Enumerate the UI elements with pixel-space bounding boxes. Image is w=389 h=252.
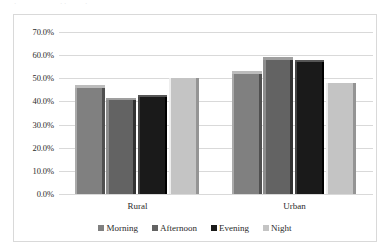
bar-bevel-left xyxy=(295,60,298,194)
bar-bevel-left xyxy=(232,71,235,194)
legend-label: Evening xyxy=(219,223,249,233)
bar-face xyxy=(75,85,105,194)
bar-bevel-top xyxy=(169,76,199,79)
bar-bevel-left xyxy=(326,81,329,194)
bar-bevel-left xyxy=(138,95,141,195)
legend-swatch-icon xyxy=(98,225,104,231)
bar-bevel-top xyxy=(263,57,293,60)
bar-face xyxy=(169,76,199,194)
legend-item-night[interactable]: Night xyxy=(263,223,292,233)
bars-layer xyxy=(59,32,373,194)
y-axis-tick-label: 70.0% xyxy=(33,27,54,37)
bar-bevel-left xyxy=(263,57,266,194)
top-artifact-text: · xyxy=(14,0,16,8)
bar-face xyxy=(263,57,293,194)
legend-swatch-icon xyxy=(152,225,158,231)
y-axis-tick-label: 60.0% xyxy=(33,50,54,60)
bar-bevel-right xyxy=(165,95,168,195)
bar-bevel-left xyxy=(75,85,78,194)
top-artifact-text: · · xyxy=(60,0,66,8)
bar-face xyxy=(232,71,262,194)
y-axis-tick-label: 40.0% xyxy=(33,96,54,106)
bar-bevel-top xyxy=(75,85,105,88)
bar-face xyxy=(138,95,168,195)
bar-night-rural xyxy=(169,76,199,194)
bar-bevel-left xyxy=(169,76,172,194)
legend-label: Afternoon xyxy=(160,223,197,233)
bar-bevel-right xyxy=(102,85,105,194)
bar-bevel-top xyxy=(326,81,356,84)
bar-morning-rural xyxy=(75,85,105,194)
legend-label: Night xyxy=(271,223,292,233)
y-axis-tick-label: 0.0% xyxy=(37,189,54,199)
top-artifact-text: · xyxy=(85,0,87,8)
chart-legend: MorningAfternoonEveningNight xyxy=(14,223,376,233)
gridline xyxy=(59,194,373,195)
bar-face xyxy=(326,81,356,194)
y-axis-tick-label: 20.0% xyxy=(33,143,54,153)
category-label-urban: Urban xyxy=(283,201,306,211)
bar-bevel-right xyxy=(133,98,136,194)
bar-evening-rural xyxy=(138,95,168,195)
bar-bevel-right xyxy=(196,76,199,194)
legend-swatch-icon xyxy=(211,225,217,231)
bar-bevel-top xyxy=(232,71,262,74)
plot-area: 0.0%10.0%20.0%30.0%40.0%50.0%60.0%70.0% xyxy=(59,32,373,194)
y-axis-tick-label: 50.0% xyxy=(33,73,54,83)
bar-bevel-right xyxy=(259,71,262,194)
bar-night-urban xyxy=(326,81,356,194)
bar-bevel-left xyxy=(106,98,109,194)
bar-bevel-top xyxy=(106,98,136,101)
bar-bevel-top xyxy=(295,60,325,63)
y-axis-tick-label: 10.0% xyxy=(33,166,54,176)
legend-item-afternoon[interactable]: Afternoon xyxy=(152,223,197,233)
chart-frame: 0.0%10.0%20.0%30.0%40.0%50.0%60.0%70.0% … xyxy=(13,14,377,242)
legend-swatch-icon xyxy=(263,225,269,231)
y-axis-tick-label: 30.0% xyxy=(33,120,54,130)
bar-bevel-right xyxy=(353,81,356,194)
bar-face xyxy=(106,98,136,194)
legend-label: Morning xyxy=(106,223,138,233)
bar-morning-urban xyxy=(232,71,262,194)
bar-bevel-top xyxy=(138,95,168,98)
top-edge-artifacts: ·· ·· xyxy=(0,0,389,9)
bar-afternoon-rural xyxy=(106,98,136,194)
bar-bevel-right xyxy=(290,57,293,194)
legend-item-morning[interactable]: Morning xyxy=(98,223,138,233)
bar-bevel-right xyxy=(322,60,325,194)
bar-evening-urban xyxy=(295,60,325,194)
bar-afternoon-urban xyxy=(263,57,293,194)
legend-item-evening[interactable]: Evening xyxy=(211,223,249,233)
category-label-rural: Rural xyxy=(128,201,148,211)
bar-face xyxy=(295,60,325,194)
